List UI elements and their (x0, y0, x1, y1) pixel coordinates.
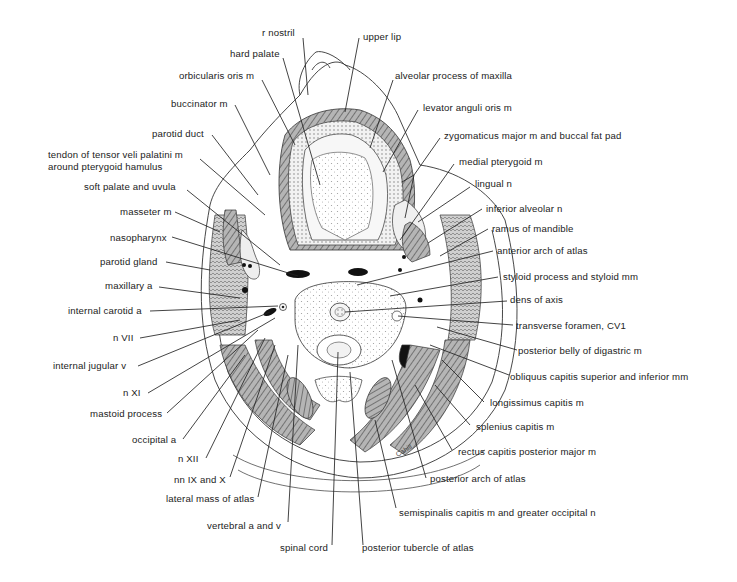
label-rectus-capitis-posterior-major: rectus capitis posterior major m (458, 446, 596, 457)
label-anterior-arch-atlas: anterior arch of atlas (497, 245, 588, 256)
label-splenius-capitis: splenius capitis m (476, 421, 554, 432)
label-zygomaticus-major-buccal-fat: zygomaticus major m and buccal fat pad (444, 130, 621, 141)
label-upper-lip: upper lip (363, 31, 401, 42)
label-spinal-cord: spinal cord (280, 542, 328, 553)
label-nasopharynx: nasopharynx (110, 232, 167, 243)
label-posterior-arch-atlas: posterior arch of atlas (430, 473, 526, 484)
label-n-xi: n XI (123, 387, 141, 398)
label-levator-anguli-oris: levator anguli oris m (423, 102, 512, 113)
label-around-pterygoid-hamulus: around pterygoid hamulus (48, 161, 163, 172)
label-maxillary-a: maxillary a (105, 280, 153, 291)
label-buccinator: buccinator m (171, 98, 228, 109)
atlas-vertebra (280, 282, 406, 368)
label-orbicularis-oris: orbicularis oris m (179, 70, 254, 81)
label-mastoid-process: mastoid process (90, 408, 162, 419)
cross-section-drawing (0, 0, 737, 582)
label-transverse-foramen-cv1: transverse foramen, CV1 (516, 320, 626, 331)
label-n-xii: n XII (178, 453, 198, 464)
label-dens-of-axis: dens of axis (510, 294, 563, 305)
label-internal-jugular-v: internal jugular v (53, 360, 126, 371)
label-parotid-gland: parotid gland (100, 256, 157, 267)
label-semispinalis-capitis-greater-occipital: semispinalis capitis m and greater occip… (399, 507, 596, 518)
label-nn-ix-and-x: nn IX and X (174, 474, 226, 485)
label-lateral-mass-atlas: lateral mass of atlas (166, 493, 254, 504)
label-obliquus-capitis: obliquus capitis superior and inferior m… (510, 371, 688, 382)
label-styloid-process-mm: styloid process and styloid mm (503, 271, 638, 282)
label-parotid-duct: parotid duct (152, 128, 204, 139)
label-posterior-belly-digastric: posterior belly of digastric m (518, 345, 642, 356)
label-medial-pterygoid: medial pterygoid m (459, 156, 543, 167)
label-soft-palate-uvula: soft palate and uvula (84, 181, 176, 192)
label-inferior-alveolar-n: inferior alveolar n (486, 203, 562, 214)
label-r-nostril: r nostril (262, 27, 295, 38)
anatomy-figure: r nostril hard palate orbicularis oris m… (0, 0, 737, 582)
label-occipital-a: occipital a (132, 434, 176, 445)
label-n-vii: n VII (113, 332, 133, 343)
label-vertebral-a-and-v: vertebral a and v (207, 520, 281, 531)
label-posterior-tubercle-atlas: posterior tubercle of atlas (362, 542, 474, 553)
label-longissimus-capitis: longissimus capitis m (490, 397, 584, 408)
label-hard-palate: hard palate (230, 48, 280, 59)
label-lingual-n: lingual n (475, 178, 512, 189)
label-tendon-tensor-veli-palatini: tendon of tensor veli palatini m (48, 149, 183, 160)
label-internal-carotid-a: internal carotid a (68, 305, 142, 316)
label-ramus-mandible: ramus of mandible (492, 223, 573, 234)
label-alveolar-process-maxilla: alveolar process of maxilla (395, 70, 512, 81)
label-masseter: masseter m (120, 206, 172, 217)
